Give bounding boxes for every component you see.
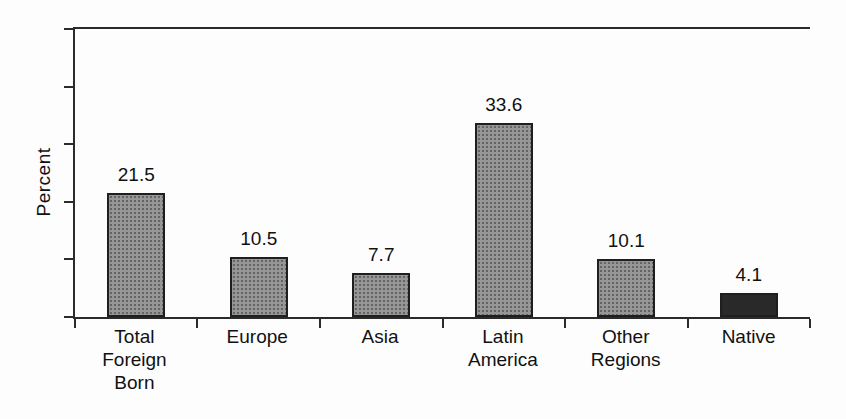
bar-slot: 4.1 [688, 29, 811, 317]
bar-chart-figure: Percent 21.510.57.733.610.14.1 Total For… [0, 0, 846, 419]
bar-value-label: 10.5 [198, 229, 321, 248]
x-axis-label-total-foreign-born: Total Foreign Born [73, 325, 196, 394]
y-axis-tick [64, 258, 73, 260]
bar-value-label: 7.7 [320, 245, 443, 264]
plot-area: 21.510.57.733.610.14.1 [73, 27, 810, 319]
y-axis-tick [64, 316, 73, 318]
x-axis-label-latin-america: Latin America [441, 325, 564, 394]
bar-slot: 10.1 [565, 29, 688, 317]
y-axis-title: Percent [33, 148, 55, 217]
bar-slot: 21.5 [75, 29, 198, 317]
bar-value-label: 21.5 [75, 165, 198, 184]
x-axis-labels: Total Foreign BornEuropeAsiaLatin Americ… [73, 325, 810, 394]
y-axis-tick [64, 143, 73, 145]
x-axis-label-native: Native [687, 325, 810, 394]
bar-asia [352, 273, 410, 317]
bar-slot: 10.5 [198, 29, 321, 317]
bar-latin-america [475, 123, 533, 317]
bar-total-foreign-born [107, 193, 165, 317]
y-axis-tick [64, 201, 73, 203]
x-axis-label-asia: Asia [319, 325, 442, 394]
x-axis-label-other-regions: Other Regions [564, 325, 687, 394]
bar-native [720, 293, 778, 317]
y-axis-tick [64, 86, 73, 88]
x-axis-label-europe: Europe [196, 325, 319, 394]
bar-europe [230, 257, 288, 317]
bar-value-label: 33.6 [443, 95, 566, 114]
bar-slot: 7.7 [320, 29, 443, 317]
y-axis-tick [64, 28, 73, 30]
bar-value-label: 10.1 [565, 231, 688, 250]
bar-slot: 33.6 [443, 29, 566, 317]
bar-other-regions [597, 259, 655, 317]
bar-value-label: 4.1 [688, 265, 811, 284]
